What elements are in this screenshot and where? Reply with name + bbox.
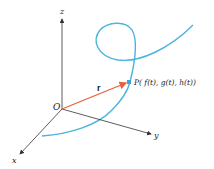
x-axis (20, 109, 62, 154)
vector-r-label: r (97, 83, 101, 93)
x-axis-label: x (12, 156, 17, 165)
origin-label: O (53, 102, 61, 112)
point-p-label: P( f(t), g(t), h(t)) (133, 78, 196, 87)
point-p-marker (127, 80, 131, 84)
z-axis-label: z (59, 7, 65, 16)
y-axis-label: y (153, 131, 159, 140)
space-curve-diagram: z y x O r P( f(t), g(t), h(t)) (0, 0, 214, 169)
